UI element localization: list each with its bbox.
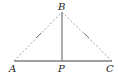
label-a: A xyxy=(8,63,16,74)
label-c: C xyxy=(106,63,114,74)
label-p: P xyxy=(57,63,65,74)
isosceles-triangle-diagram: B A P C xyxy=(0,0,118,75)
label-b: B xyxy=(57,1,65,12)
tick-mark-ab xyxy=(36,33,41,38)
tick-mark-bc xyxy=(84,33,89,38)
